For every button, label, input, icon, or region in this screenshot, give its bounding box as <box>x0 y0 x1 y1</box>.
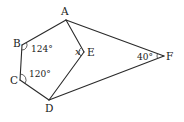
segment-af <box>66 20 164 56</box>
vertex-label-c: C <box>10 74 18 86</box>
geometry-diagram: A B C D E F 124° 120° x 40° <box>0 0 184 122</box>
angle-label-c: 120° <box>29 69 51 79</box>
segment-cd <box>20 80 49 100</box>
segment-df <box>49 56 164 100</box>
vertex-label-e: E <box>87 46 95 58</box>
vertex-label-a: A <box>60 5 69 17</box>
angle-label-e: x <box>75 46 81 57</box>
angle-label-b: 124° <box>31 44 53 54</box>
vertex-label-b: B <box>13 37 21 49</box>
angle-label-f: 40° <box>137 52 153 62</box>
vertex-label-f: F <box>166 50 173 62</box>
segment-ab <box>22 20 66 45</box>
vertex-label-d: D <box>45 102 53 114</box>
